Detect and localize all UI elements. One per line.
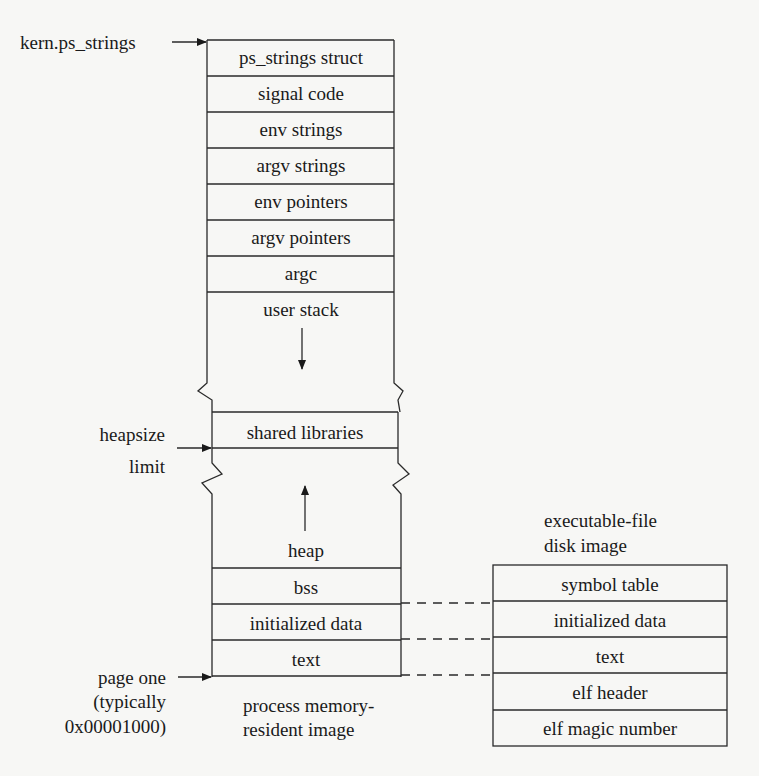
- row-bss: bss: [294, 577, 318, 598]
- row-text: text: [292, 649, 321, 670]
- row-user-stack: user stack: [263, 299, 339, 320]
- page-one-label-line1: page one: [98, 667, 166, 688]
- right-break-top: [394, 40, 403, 412]
- row-signal-code: signal code: [258, 83, 344, 104]
- disk-row-symbol-table: symbol table: [561, 574, 659, 595]
- row-argc: argc: [285, 263, 317, 284]
- disk-image-caption-line2: disk image: [544, 535, 627, 556]
- row-heap: heap: [288, 540, 324, 561]
- row-env-pointers: env pointers: [254, 191, 347, 212]
- row-argv-strings: argv strings: [257, 155, 346, 176]
- kern-ps-strings-label: kern.ps_strings: [20, 32, 136, 53]
- memory-image-caption-line2: resident image: [243, 719, 354, 740]
- row-initialized-data: initialized data: [250, 613, 363, 634]
- heapsize-label-line1: heapsize: [100, 424, 165, 445]
- disk-row-elf-header: elf header: [572, 682, 648, 703]
- row-argv-pointers: argv pointers: [251, 227, 350, 248]
- left-break-top: [198, 40, 212, 412]
- disk-row-initialized-data: initialized data: [554, 610, 667, 631]
- disk-image-caption-line1: executable-file: [544, 510, 657, 531]
- memory-layout-diagram: ps_strings struct signal code env string…: [0, 0, 759, 776]
- process-memory-image: ps_strings struct signal code env string…: [198, 40, 409, 740]
- memory-image-caption-line1: process memory-: [243, 695, 374, 716]
- pointer-labels: kern.ps_strings heapsize limit page one …: [20, 32, 211, 738]
- heapsize-label-line2: limit: [129, 456, 166, 477]
- left-break-bottom: [202, 448, 222, 677]
- page-one-label-line3: 0x00001000): [65, 716, 166, 738]
- row-env-strings: env strings: [260, 119, 343, 140]
- page-one-label-line2: (typically: [93, 691, 166, 713]
- disk-row-elf-magic-number: elf magic number: [543, 718, 678, 739]
- executable-disk-image: executable-file disk image symbol table …: [493, 510, 727, 746]
- mapping-lines: [401, 603, 493, 675]
- right-break-bottom: [393, 448, 409, 677]
- disk-row-text: text: [596, 646, 625, 667]
- row-ps-strings-struct: ps_strings struct: [239, 47, 364, 68]
- row-shared-libraries: shared libraries: [247, 422, 364, 443]
